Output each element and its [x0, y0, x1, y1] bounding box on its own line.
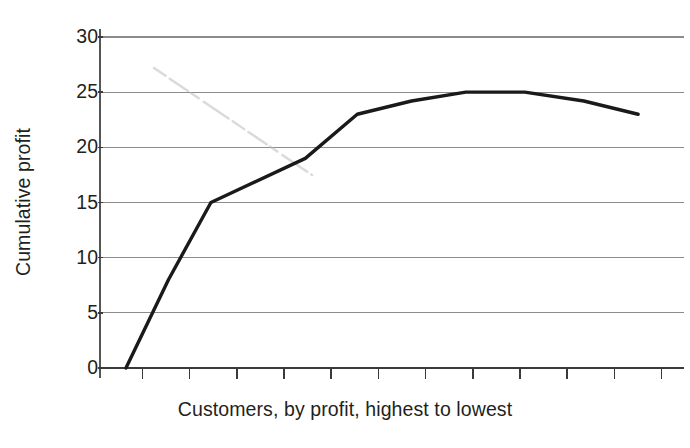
y-tick-label: 0: [50, 358, 98, 378]
x-axis-title-text: Customers, by profit, highest to lowest: [178, 398, 512, 420]
y-tick-label: 20: [50, 138, 98, 158]
y-axis-title: Cumulative profit: [0, 0, 46, 448]
x-axis-ticks: [142, 368, 661, 379]
axis-lines: [100, 29, 684, 378]
scan-artifact: [154, 68, 312, 175]
y-tick-label: 15: [50, 193, 98, 213]
plot-area: [98, 0, 690, 448]
y-tick-label: 5: [50, 303, 98, 323]
y-tick-label: 30: [50, 27, 98, 47]
data-series-layer: [126, 92, 638, 368]
y-axis-tick-labels: 051015202530: [46, 0, 98, 448]
y-tick-label: 10: [50, 248, 98, 268]
gridlines: [100, 37, 684, 313]
y-tick-label: 25: [50, 82, 98, 102]
y-axis-title-text: Cumulative profit: [12, 128, 35, 276]
chart-figure: Cumulative profit 051015202530 Customers…: [0, 0, 690, 448]
chart-canvas: [98, 0, 690, 448]
x-axis-title: Customers, by profit, highest to lowest: [0, 398, 690, 421]
